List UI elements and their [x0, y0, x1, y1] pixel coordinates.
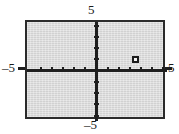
- data-point-marker: [132, 56, 139, 63]
- y-axis-tick: [94, 47, 99, 49]
- x-axis-tick: [162, 67, 164, 72]
- x-axis-tick: [84, 67, 86, 72]
- x-axis-tick: [118, 67, 120, 72]
- x-axis-tick: [129, 67, 131, 72]
- x-axis-tick: [140, 67, 142, 72]
- y-axis-tick: [94, 103, 99, 105]
- y-axis-tick: [94, 58, 99, 60]
- y-axis-tick: [94, 36, 99, 38]
- y-axis-tick: [94, 92, 99, 94]
- coordinate-plane-figure: 5 –5 5 –5: [0, 0, 179, 134]
- plot-frame: [25, 20, 165, 119]
- x-axis-tick: [40, 67, 42, 72]
- y-axis-tick: [94, 115, 99, 117]
- x-axis-tick: [73, 67, 75, 72]
- y-axis-tick: [94, 25, 99, 27]
- x-axis-tick: [107, 67, 109, 72]
- x-axis-min-label: –5: [2, 61, 15, 74]
- y-axis-max-label: 5: [88, 3, 95, 16]
- x-axis-tick: [51, 67, 53, 72]
- x-axis-tick: [62, 67, 64, 72]
- y-axis-tick: [94, 81, 99, 83]
- x-axis-tick: [151, 67, 153, 72]
